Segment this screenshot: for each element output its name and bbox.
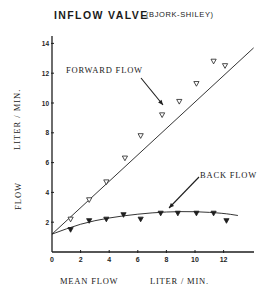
back-flow-fit-line <box>52 212 238 235</box>
forward-flow-label: FORWARD FLOW <box>66 65 143 75</box>
back-flow-point <box>104 217 109 222</box>
x-tick-label: 4 <box>107 256 111 263</box>
y-tick-label: 14 <box>42 40 50 47</box>
y-axis-label-flow: FLOW <box>13 182 23 210</box>
forward-flow-arrow <box>141 78 163 105</box>
forward-flow-fit-line <box>52 48 254 234</box>
x-tick-label: 12 <box>220 256 228 263</box>
back-flow-label: BACK FLOW <box>200 170 257 180</box>
forward-flow-point <box>194 82 199 87</box>
back-flow-point <box>224 219 229 224</box>
forward-flow-point <box>122 156 127 161</box>
x-axis-label-mean-flow: MEAN FLOW <box>60 276 118 286</box>
forward-flow-point <box>222 64 227 69</box>
x-axis-label-units: LITER / MIN. <box>150 276 209 286</box>
forward-flow-point <box>138 134 143 139</box>
forward-flow-point <box>211 59 216 64</box>
y-tick-label: 6 <box>45 159 49 166</box>
forward-flow-point <box>177 99 182 104</box>
back-flow-point <box>121 213 126 218</box>
back-flow-point <box>138 217 143 222</box>
y-tick-label: 10 <box>42 100 50 107</box>
y-tick-label: 8 <box>45 129 49 136</box>
back-flow-point <box>68 228 73 233</box>
back-flow-point <box>194 211 199 216</box>
forward-flow-point <box>68 217 73 222</box>
back-flow-point <box>211 211 216 216</box>
x-tick-label: 0 <box>50 256 54 263</box>
forward-flow-point <box>160 113 165 118</box>
back-flow-arrow <box>169 177 199 208</box>
plot-area: 0246810122468101214 <box>0 0 272 294</box>
x-tick-label: 6 <box>136 256 140 263</box>
y-tick-label: 2 <box>45 219 49 226</box>
y-tick-label: 12 <box>42 70 50 77</box>
back-flow-point <box>175 211 180 216</box>
x-tick-label: 2 <box>79 256 83 263</box>
y-tick-label: 4 <box>45 189 49 196</box>
x-tick-label: 10 <box>191 256 199 263</box>
back-flow-point <box>158 211 163 216</box>
x-tick-label: 8 <box>164 256 168 263</box>
y-axis-label-units: LITER / MIN. <box>12 89 22 150</box>
